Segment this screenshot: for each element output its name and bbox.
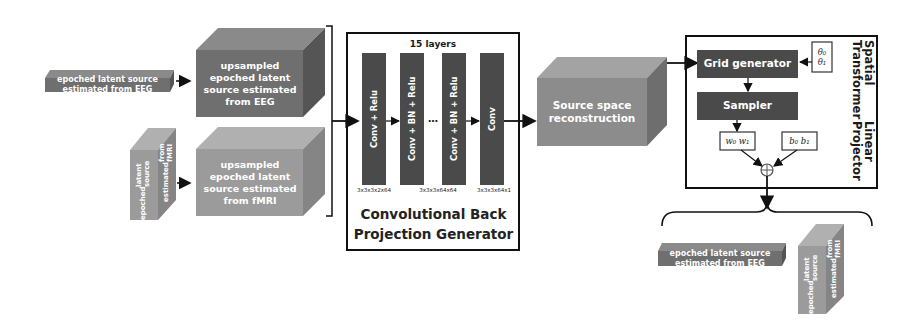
layer-dims-2: 3x3x3x64x64: [408, 185, 468, 195]
layer-block-2-label: Conv + BN + Relu: [400, 53, 424, 185]
layer-block-3-label: Conv + BN + Relu: [442, 53, 466, 185]
generator-title-line2: Projection Generator: [348, 223, 519, 245]
stn-title: Spatial Transformer Linear Projector: [851, 40, 875, 186]
output-fmri-cube-side-label: estimated from fMRI: [826, 228, 844, 298]
input-fmri-cube-side-label: estimated from fMRI: [158, 132, 176, 202]
upsampled-eeg-label: upsampled epoched latent source estimate…: [200, 52, 300, 116]
weights-box: w₀ w₁: [720, 132, 755, 150]
layer-dims-1: 3x3x3x2x64: [348, 185, 400, 195]
output-fmri-cube-label: epoched latent source: [798, 246, 826, 314]
biases-box: b₀ b₁: [782, 132, 817, 150]
layer-ellipsis: …: [424, 112, 442, 126]
layer-dims-3: 3x3x3x64x1: [468, 185, 520, 195]
theta-params: θ₀ θ₁: [812, 42, 832, 72]
layer-block-4-label: Conv: [480, 53, 504, 185]
grid-generator-label: Grid generator: [697, 50, 798, 78]
layers-count-label: 15 layers: [400, 38, 466, 52]
sampler-label: Sampler: [697, 92, 798, 120]
reconstruction-label: Source space reconstruction: [540, 80, 644, 144]
generator-title-line1: Convolutional Back: [348, 203, 519, 225]
input-eeg-slab-label: epoched latent source estimated from EEG: [45, 77, 170, 93]
layer-block-1-label: Conv + Relu: [362, 53, 386, 185]
output-eeg-slab-label: epoched latent source estimated from EEG: [658, 250, 782, 267]
input-fmri-cube-label: epoched latent source: [130, 150, 158, 220]
upsampled-fmri-label: upsampled epoched latent source estimate…: [200, 151, 300, 215]
